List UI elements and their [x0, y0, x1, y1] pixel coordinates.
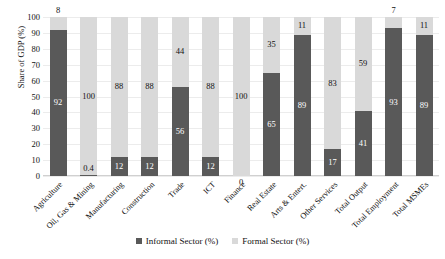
bar-column: 1189	[409, 17, 439, 176]
bar-segment-formal: 11	[416, 17, 433, 34]
y-tick-label: 40	[32, 108, 41, 116]
bar-column: 4456	[165, 17, 195, 176]
y-tick-label: 90	[32, 29, 41, 37]
bar-value-label: 44	[176, 47, 185, 56]
bar-value-label: 83	[328, 79, 337, 88]
bar-segment-formal: 100	[233, 17, 250, 176]
bar-value-label: 12	[115, 162, 124, 171]
y-tick-label: 80	[32, 45, 41, 53]
bar-segment-formal: 7	[385, 17, 402, 28]
bar-segment-formal: 35	[263, 17, 280, 73]
bar-value-label: 12	[206, 162, 215, 171]
bar-segment-formal: 8	[50, 17, 67, 30]
bar-segment-formal: 88	[202, 17, 219, 157]
bar-column: 1000.4	[74, 17, 104, 176]
y-tick-label: 70	[32, 61, 41, 69]
bar-value-label: 12	[145, 162, 154, 171]
legend-label: Formal Sector (%)	[242, 236, 309, 246]
bar-value-label: 0.4	[83, 164, 94, 173]
bar-value-label: 17	[328, 158, 337, 167]
bar-segment-formal: 100	[80, 17, 97, 175]
stacked-bar-chart: Share of GDP (%) 1009080706050403020100 …	[0, 0, 445, 259]
bar-column: 892	[43, 17, 73, 176]
bar-column: 3565	[257, 17, 287, 176]
bar-column: 8317	[318, 17, 348, 176]
bar-value-label: 89	[298, 101, 307, 110]
bar-column: 793	[379, 17, 409, 176]
bar-segment-formal: 11	[294, 17, 311, 34]
bar-segment-informal: 89	[416, 35, 433, 177]
y-axis-tick-labels: 1009080706050403020100	[14, 0, 40, 259]
bar-value-label: 88	[145, 82, 154, 91]
bar-column: 8812	[135, 17, 165, 176]
bar-value-label: 8	[56, 6, 60, 15]
bar-value-label: 93	[389, 98, 398, 107]
bar-column: 8812	[104, 17, 134, 176]
legend-swatch-formal	[232, 238, 238, 244]
bar-value-label: 41	[359, 139, 368, 148]
bar-segment-informal: 56	[172, 87, 189, 176]
bar-column: 5941	[348, 17, 378, 176]
bar-value-label: 65	[267, 120, 276, 129]
y-tick-label: 0	[36, 172, 40, 180]
x-tick-label: Trade	[167, 180, 187, 200]
bar-segment-informal: 12	[202, 157, 219, 176]
chart-legend: Informal Sector (%)Formal Sector (%)	[0, 236, 445, 246]
bar-segment-informal: 41	[355, 111, 372, 176]
x-axis-tick-labels: AgricultureOil, Gas & MiningManufacturin…	[43, 176, 439, 236]
bar-value-label: 88	[115, 82, 124, 91]
bar-value-label: 88	[206, 82, 215, 91]
bar-value-label: 11	[420, 21, 428, 30]
bar-value-label: 92	[54, 98, 63, 107]
y-tick-label: 60	[32, 77, 41, 85]
bar-segment-informal: 12	[141, 157, 158, 176]
bar-segment-formal: 44	[172, 17, 189, 87]
bar-segment-formal: 88	[111, 17, 128, 157]
bar-column: 1189	[287, 17, 317, 176]
bar-segment-informal: 12	[111, 157, 128, 176]
y-tick-label: 50	[32, 93, 41, 101]
legend-swatch-informal	[136, 238, 142, 244]
bar-value-label: 100	[235, 92, 248, 101]
bar-segment-informal: 93	[385, 28, 402, 176]
bar-segment-informal: 65	[263, 73, 280, 176]
legend-label: Informal Sector (%)	[146, 236, 218, 246]
bar-segment-informal: 17	[324, 149, 341, 176]
y-tick-label: 20	[32, 140, 41, 148]
bar-value-label: 59	[359, 59, 368, 68]
y-tick-label: 30	[32, 124, 41, 132]
x-tick-label: ICT	[202, 180, 218, 196]
x-tick-label: Finance	[222, 180, 247, 205]
bar-segment-formal: 59	[355, 17, 372, 111]
bar-value-label: 11	[298, 21, 306, 30]
legend-item[interactable]: Informal Sector (%)	[136, 236, 218, 246]
plot-area: 8921000.48812881244568812100035651189831…	[43, 17, 439, 176]
bar-segment-informal: 92	[50, 30, 67, 176]
bar-value-label: 7	[391, 6, 395, 15]
bar-value-label: 100	[82, 92, 95, 101]
bar-value-label: 56	[176, 127, 185, 136]
bar-column: 8812	[196, 17, 226, 176]
bar-value-label: 89	[420, 101, 429, 110]
legend-item[interactable]: Formal Sector (%)	[232, 236, 309, 246]
bar-value-label: 35	[267, 40, 276, 49]
bar-segment-informal: 89	[294, 35, 311, 177]
bar-segment-formal: 88	[141, 17, 158, 157]
y-tick-label: 100	[27, 13, 40, 21]
bar-series-group: 8921000.48812881244568812100035651189831…	[43, 17, 439, 176]
y-tick-label: 10	[32, 156, 41, 164]
bar-segment-formal: 83	[324, 17, 341, 149]
bar-column: 1000	[226, 17, 256, 176]
